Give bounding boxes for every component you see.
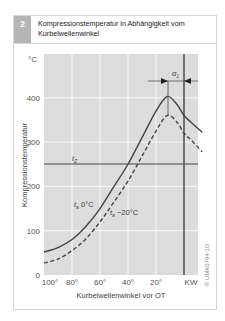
svg-text:KW: KW [185, 278, 198, 287]
y-axis-label: Kompressionstemperatur [20, 123, 29, 207]
svg-text:40°: 40° [122, 278, 134, 287]
y-unit: °C [28, 55, 37, 64]
svg-text:80°: 80° [66, 278, 78, 287]
svg-text:100°: 100° [42, 278, 59, 287]
svg-text:0: 0 [36, 271, 41, 280]
svg-text:20°: 20° [150, 278, 162, 287]
chart: tZ α1 ta 0°C ta −20°C 0100200300400 100°… [0, 0, 225, 321]
x-axis-label: Kurbelwellenwinkel vor OT [77, 291, 166, 300]
image-credit: © UMK0794-1D [204, 243, 210, 286]
svg-text:400: 400 [27, 94, 41, 103]
x-tick-labels: 100°80°60°40°20°KW [42, 278, 198, 287]
series-label-1: ta −20°C [110, 208, 139, 218]
svg-text:60°: 60° [94, 278, 106, 287]
svg-text:100: 100 [27, 227, 41, 236]
